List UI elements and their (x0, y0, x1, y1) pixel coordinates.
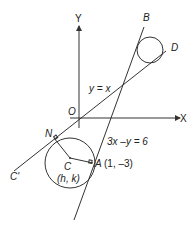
equation-y-equals-x: y = x (88, 83, 111, 94)
origin-label: O (68, 106, 76, 117)
y-axis-label: Y (75, 13, 82, 24)
point-c-coords: (h, k) (57, 173, 80, 184)
right-angle-mark-a (89, 160, 93, 164)
circle-tangent-diagram: Y X O B D y = x 3x –y = 6 N C' C (h, k) … (0, 0, 189, 226)
line-y-equals-x (14, 51, 166, 171)
radius-cn (54, 138, 70, 158)
point-a-coords: (1, –3) (104, 158, 133, 169)
small-circle (137, 37, 163, 63)
point-n-label: N (45, 128, 53, 139)
point-d-label: D (171, 42, 178, 53)
point-c-label: C (64, 161, 72, 172)
point-c-prime-label: C' (10, 171, 20, 182)
center-point-c (69, 157, 71, 159)
equation-3x-y-6: 3x –y = 6 (107, 136, 148, 147)
point-a-label: A (94, 158, 102, 169)
point-b-label: B (143, 12, 150, 23)
line-3x-minus-y-equals-6 (74, 27, 144, 220)
x-axis-label: X (180, 113, 187, 124)
